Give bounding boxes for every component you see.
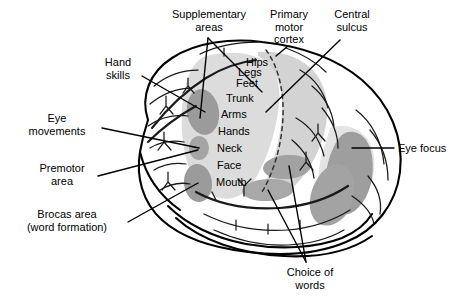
callout-eye-focus: Eye focus [398,142,456,155]
homunculus-label-feet: Feet [236,77,258,89]
homunculus-label-mouth: Mouth [216,176,247,188]
callout-brocas-area: Brocas area (word formation) [8,208,126,233]
homunculus-label-trunk: Trunk [226,92,254,104]
callout-central-sulcus: Central sulcus [322,8,382,33]
brain-diagram: Supplementary areas Primary motor cortex… [0,0,462,306]
callout-choice-of-words: Choice of words [274,266,346,291]
callout-primary-motor-cortex: Primary motor cortex [258,8,320,46]
homunculus-label-face: Face [217,159,241,171]
callout-eye-movements: Eye movements [14,112,100,137]
callout-hand-skills: Hand skills [92,56,144,81]
callout-premotor-area: Premotor area [28,162,96,187]
homunculus-label-hands: Hands [218,125,250,137]
homunculus-label-arms: Arms [221,108,247,120]
callout-supplementary-areas: Supplementary areas [166,8,252,33]
homunculus-label-neck: Neck [217,142,242,154]
frontal-inferior-outline [140,152,180,210]
